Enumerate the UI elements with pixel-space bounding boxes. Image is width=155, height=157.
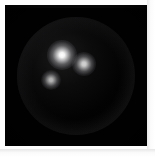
- frame-right-edge: [147, 0, 155, 157]
- render-canvas: [5, 5, 147, 146]
- sphere-render-figure: [0, 0, 155, 157]
- frame-bottom-edge: [0, 149, 155, 157]
- canvas-vignette: [5, 5, 147, 146]
